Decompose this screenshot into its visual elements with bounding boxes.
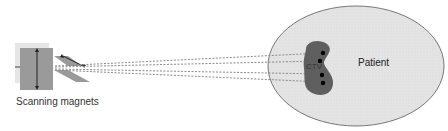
magnets-label: Scanning magnets: [16, 96, 99, 107]
ctv-label: CTV: [306, 62, 322, 71]
patient-label: Patient: [358, 57, 389, 68]
spot: [321, 51, 325, 55]
spot: [320, 73, 324, 77]
spot: [321, 81, 325, 85]
scanning-magnets: [15, 43, 90, 90]
patient-body: [268, 6, 444, 126]
